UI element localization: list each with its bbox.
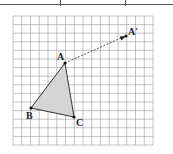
label-a: A — [57, 51, 65, 62]
label-c: C — [76, 117, 83, 128]
label-b: B — [26, 110, 33, 121]
label-a-prime: A′ — [128, 26, 138, 37]
grid-diagram: A B C A′ — [0, 0, 173, 154]
triangle-abc — [31, 63, 74, 117]
